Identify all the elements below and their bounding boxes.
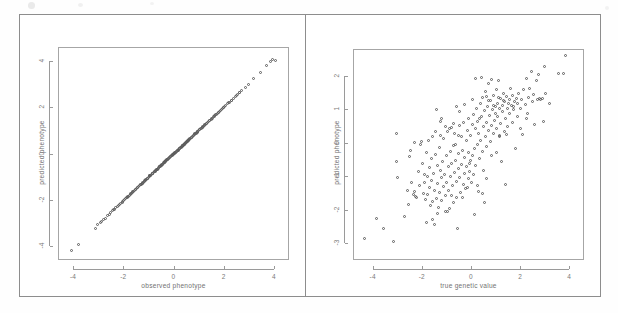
y-axis-tick <box>50 154 53 155</box>
scatter-point <box>462 183 465 186</box>
scatter-point <box>532 93 535 96</box>
scatter-point <box>454 159 457 162</box>
plot-box-right <box>353 49 584 260</box>
scatter-point <box>489 140 492 143</box>
scatter-point <box>113 208 116 211</box>
scatter-point <box>427 139 430 142</box>
scatter-point <box>475 107 478 110</box>
scatter-point <box>481 150 484 153</box>
x-axis-tick-label: -4 <box>61 273 85 280</box>
y-axis-tick <box>345 210 348 211</box>
x-axis-tick <box>73 266 74 269</box>
y-axis-tick <box>50 200 53 201</box>
scatter-point <box>467 151 470 154</box>
scatter-point <box>455 105 458 108</box>
scatter-point <box>502 92 505 95</box>
scatter-point <box>500 160 503 163</box>
x-axis-tick-label: -4 <box>361 273 385 280</box>
scatter-point <box>462 121 465 124</box>
x-axis-tick <box>274 266 275 269</box>
x-axis-tick-label: -2 <box>111 273 135 280</box>
scatter-point <box>274 59 277 62</box>
x-axis-tick <box>569 266 570 269</box>
scatter-point <box>419 143 422 146</box>
y-axis-title-left: predicted phenotype <box>38 37 45 268</box>
x-axis-tick-label: 0 <box>162 273 186 280</box>
scatter-point <box>413 141 416 144</box>
scatter-point <box>434 153 437 156</box>
scatter-point <box>104 217 107 220</box>
scatter-point <box>495 151 498 154</box>
scatter-point <box>439 169 442 172</box>
scatter-point <box>457 152 460 155</box>
scatter-point <box>219 109 222 112</box>
scatter-point <box>444 125 447 128</box>
scatter-point <box>94 227 97 230</box>
scatter-point <box>421 162 424 165</box>
scatter-point <box>487 129 490 132</box>
scatter-point <box>456 227 459 230</box>
scatter-point <box>175 150 178 153</box>
scatter-point <box>477 190 480 193</box>
scatter-point <box>525 77 528 80</box>
scatter-point <box>436 164 439 167</box>
scatter-point <box>519 107 522 110</box>
scatter-point <box>151 172 154 175</box>
scatter-point <box>505 133 508 136</box>
scatter-point <box>437 206 440 209</box>
panel-truegenetic-vs-predicted: -4-2024210-1-2-3 true genetic value pred… <box>305 14 601 297</box>
scatter-point <box>488 114 491 117</box>
scatter-point <box>496 102 499 105</box>
scatter-point <box>476 143 479 146</box>
scatter-point <box>516 115 519 118</box>
y-axis-tick <box>50 61 53 62</box>
scatter-point <box>441 160 444 163</box>
scatter-point <box>459 191 462 194</box>
scatter-point <box>468 170 471 173</box>
scatter-point <box>501 104 504 107</box>
scatter-point <box>482 125 485 128</box>
scatter-point <box>406 189 409 192</box>
scatter-point <box>247 83 250 86</box>
scatter-point <box>435 197 438 200</box>
x-axis-line <box>73 269 274 270</box>
x-axis-tick-label: 2 <box>212 273 236 280</box>
scatter-point <box>191 135 194 138</box>
x-axis-tick <box>174 266 175 269</box>
scatter-point <box>493 119 496 122</box>
scatter-point <box>235 94 238 97</box>
scatter-point <box>244 86 247 89</box>
y-axis-tick <box>345 109 348 110</box>
scan-artifact <box>605 6 609 10</box>
x-axis-tick-label: 4 <box>557 273 581 280</box>
scatter-point <box>542 120 545 123</box>
scatter-point <box>479 102 482 105</box>
scatter-point <box>395 160 398 163</box>
scatter-point <box>430 179 433 182</box>
scatter-point <box>483 201 486 204</box>
scatter-point <box>146 177 149 180</box>
scatter-point <box>77 243 80 246</box>
y-axis-tick <box>50 107 53 108</box>
x-axis-title-right: true genetic value <box>353 282 584 289</box>
scatter-point <box>548 102 551 105</box>
scatter-point <box>530 70 533 73</box>
scatter-point <box>564 54 567 57</box>
scatter-point <box>490 124 493 127</box>
scatter-point <box>425 151 428 154</box>
y-axis-title-right: predicted phenotype <box>333 37 340 268</box>
scatter-point <box>507 102 510 105</box>
scatter-point <box>461 149 464 152</box>
scan-artifact <box>28 2 35 9</box>
scatter-point <box>515 97 518 100</box>
y-axis-tick <box>50 246 53 247</box>
scatter-point <box>498 135 501 138</box>
scatter-point <box>448 207 451 210</box>
scatter-point <box>487 82 490 85</box>
scatter-point <box>443 173 446 176</box>
scatter-point <box>409 149 412 152</box>
x-axis-tick <box>224 266 225 269</box>
scatter-point <box>375 217 378 220</box>
scatter-point <box>433 189 436 192</box>
figure-root: -4-2024420-2-4 observed phenotype predic… <box>0 0 618 313</box>
